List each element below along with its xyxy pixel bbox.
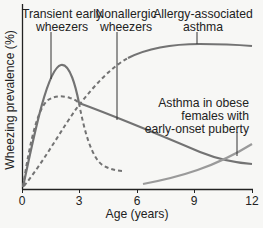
label-transient-line1: Transient early [22,7,103,21]
x-tick-label: 0 [19,194,26,208]
x-axis-title: Age (years) [106,207,169,221]
y-axis-title: Wheezing prevalence (%) [3,30,17,170]
label-allergy-line2: asthma [183,20,223,34]
x-tick-label: 6 [134,194,141,208]
nonallergic-curve-dashed [23,96,79,187]
x-tick-label: 9 [191,194,198,208]
label-obese-line3: early-onset puberty [145,122,250,136]
wheezing-phenotypes-chart: 0 3 6 9 12 Age (years) Wheezing prevalen… [0,0,263,228]
label-obese-line1: Asthma in obese [158,96,249,110]
label-nonallergic-line1: Nonallergic [96,7,157,21]
transient-early-curve-solid [23,65,79,187]
allergy-asthma-curve-solid [128,44,252,58]
label-allergy-line1: Allergy-associated [153,7,253,21]
label-transient-line2: wheezers [35,20,88,34]
label-nonallergic-line2: wheezers [99,20,152,34]
x-tick-label: 3 [76,194,83,208]
transient-early-curve-dashed [79,103,125,171]
label-obese-line2: females with [181,109,249,123]
x-tick-label: 12 [245,194,259,208]
allergy-asthma-curve-dashed [24,58,128,186]
